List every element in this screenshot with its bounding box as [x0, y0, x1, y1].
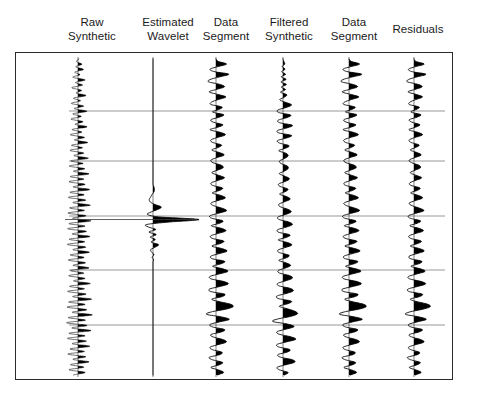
trace-data-segment-2: [206, 57, 233, 377]
header-residuals: Residuals: [358, 23, 478, 37]
header-line-1: Residuals: [358, 23, 478, 37]
trace-canvas: [16, 53, 454, 381]
wiggle-outline: [339, 59, 366, 375]
trace-raw-synthetic-0: [67, 57, 93, 377]
trace-estimated-wavelet-1: [65, 57, 199, 377]
trace-residuals-5: [405, 57, 430, 377]
trace-data-segment-4: [339, 57, 366, 377]
seismic-figure: Raw Synthetic Estimated Wavelet Data Seg…: [0, 0, 482, 401]
seismic-plot-area: [15, 52, 453, 380]
wiggle-outline: [206, 59, 233, 375]
trace-filtered-synthetic-3: [272, 57, 297, 377]
wiggle-outline: [405, 59, 430, 375]
